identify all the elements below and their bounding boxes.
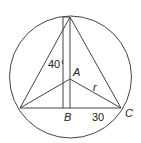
triangle-right-side [70,17,121,108]
base-label: 30 [92,111,104,123]
radius-label: r [93,81,98,93]
point-a-label: A [72,66,80,78]
point-b-label: B [64,111,71,123]
geometry-diagram: 40 A r B 30 C [0,0,141,143]
point-c-label: C [125,107,133,119]
height-label: 40 [48,58,60,70]
